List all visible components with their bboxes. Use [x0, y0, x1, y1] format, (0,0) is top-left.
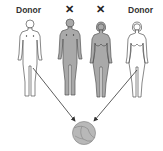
- figure-donor-man: [18, 20, 42, 96]
- diagram-canvas: [0, 0, 163, 151]
- figure-parent-woman: [90, 22, 112, 97]
- arrow-from-donor-woman: [94, 70, 137, 121]
- embryo-icon: [73, 122, 96, 145]
- figure-donor-woman: [126, 22, 148, 97]
- figure-parent-man: [58, 19, 82, 95]
